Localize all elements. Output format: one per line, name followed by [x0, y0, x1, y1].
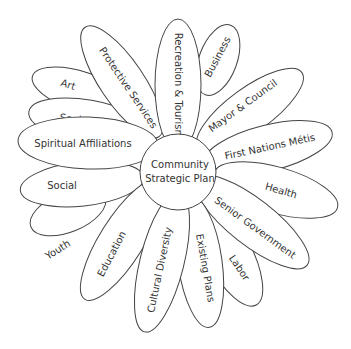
petal-label-youth: Youth: [42, 238, 72, 262]
center-label-line1: Community: [151, 159, 209, 170]
petal-label-recreation-tourism: Recreation & Tourism: [173, 33, 184, 139]
petal-label-social: Social: [47, 180, 77, 191]
center-node: Community Strategic Plan: [140, 134, 216, 210]
petal-label-spiritual-affiliations: Spiritual Affiliations: [34, 138, 131, 149]
petal-recreation-tourism: Recreation & Tourism: [155, 19, 201, 151]
center-label-line2: Strategic Plan: [145, 173, 215, 184]
community-strategic-plan-diagram: Art Seniors Protective Services Business…: [0, 0, 351, 349]
